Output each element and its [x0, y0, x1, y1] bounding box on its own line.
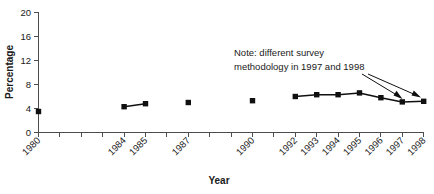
x-axis-title: Year: [208, 175, 229, 186]
y-axis-ticks: [34, 13, 39, 133]
x-tick-label-1994: 1994: [319, 135, 342, 158]
x-tick-label-1998: 1998: [405, 135, 428, 158]
y-tick-label-12: 12: [20, 55, 31, 66]
data-point-1993: [314, 92, 319, 97]
x-tick-label-1984: 1984: [105, 135, 128, 158]
x-tick-label-1993: 1993: [298, 135, 321, 158]
data-point-1995: [357, 90, 362, 95]
data-point-1984: [121, 104, 126, 109]
series-1984-1985: [121, 101, 148, 109]
y-tick-label-20: 20: [20, 7, 31, 18]
x-tick-label-1992: 1992: [276, 135, 299, 158]
x-axis-ticks: [39, 133, 424, 138]
x-tick-label-1987: 1987: [169, 135, 192, 158]
x-tick-label-1985: 1985: [127, 135, 150, 158]
y-tick-label-8: 8: [26, 79, 31, 90]
note-line-2: methodology in 1997 and 1998: [234, 61, 364, 72]
series-1987: [186, 100, 191, 105]
series-1980: [36, 109, 41, 114]
data-point-1994: [335, 92, 340, 97]
data-point-1985: [143, 101, 148, 106]
data-point-1996: [378, 95, 383, 100]
data-point-1992: [293, 94, 298, 99]
note-line-1: Note: different survey: [234, 47, 324, 58]
data-point-1990: [250, 98, 255, 103]
data-point-1987: [186, 100, 191, 105]
data-point-1998: [421, 99, 426, 104]
x-tick-label-1996: 1996: [362, 135, 385, 158]
series-line-1984-1985: [124, 104, 145, 107]
x-tick-label-1997: 1997: [383, 135, 406, 158]
chart-plot-area: 20 16 12 8 4 0 Percentage: [0, 0, 434, 194]
data-point-1997: [400, 99, 405, 104]
x-tick-label-1990: 1990: [234, 135, 257, 158]
y-tick-label-4: 4: [26, 103, 31, 114]
x-tick-label-1995: 1995: [341, 135, 364, 158]
series-1992-1998: [293, 90, 427, 104]
chart-container: 20 16 12 8 4 0 Percentage: [0, 0, 434, 194]
series-1990: [250, 98, 255, 103]
x-tick-label-1980: 1980: [20, 135, 43, 158]
y-tick-label-0: 0: [26, 127, 31, 138]
y-axis-title: Percentage: [4, 45, 15, 99]
y-tick-label-16: 16: [20, 31, 31, 42]
data-point-1980: [36, 109, 41, 114]
